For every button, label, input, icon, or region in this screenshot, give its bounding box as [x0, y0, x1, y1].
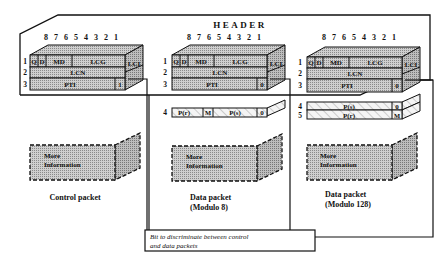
row-number: 4	[298, 102, 302, 111]
field-pti: PTI	[206, 81, 218, 89]
field-q: Q	[31, 58, 37, 66]
more-info-text: Information	[44, 161, 81, 169]
more-info-text: More	[320, 152, 336, 160]
data-mod128-header: 8 7 6 5 4 3 2 1 1 2 3 Q D MD LCG LCI LCN…	[298, 33, 420, 92]
field-lcn: LCN	[71, 69, 86, 77]
control-more-info: More Information	[30, 133, 140, 180]
control-packet-header: 8 7 6 5 4 3 2 1 1 2 3 Q D MD LCG LCI LCN…	[23, 33, 143, 90]
field-lcg: LCG	[232, 58, 248, 66]
row-number: 2	[23, 68, 27, 77]
field-d: D	[39, 58, 44, 66]
bit-numbers: 8 7 6 5 4 3 2 1	[322, 33, 398, 42]
field-lcg: LCG	[90, 58, 106, 66]
bit-numbers: 8 7 6 5 4 3 2 1	[44, 33, 120, 42]
data-mod8-title: Data packet	[190, 193, 231, 202]
field-lci: LCI	[405, 61, 418, 69]
field-discriminator-bit: 1	[118, 81, 122, 89]
x25-packet-diagram: HEADER 8 7 6 5 4 3 2 1 1 2 3 Q D MD LCG …	[0, 0, 447, 264]
data-mod8-header: 8 7 6 5 4 3 2 1 1 2 3 Q D MD LCG LCI LCN…	[163, 33, 285, 90]
discriminator-caption: Bit to discriminate between control and …	[145, 230, 315, 251]
row-number: 2	[163, 68, 167, 77]
field-pr: P(r)	[178, 109, 191, 117]
row-number: 1	[163, 57, 167, 66]
more-info-text: More	[44, 152, 60, 160]
row-number: 3	[298, 81, 302, 90]
field-md: MD	[195, 58, 207, 66]
field-bit: 0	[395, 103, 399, 111]
field-m: M	[394, 112, 400, 119]
row-number: 3	[23, 80, 27, 89]
row-number: 2	[298, 69, 302, 78]
data-mod8-row4: 4 P(r) M P(s) 0	[163, 100, 285, 117]
field-lcn: LCN	[213, 69, 228, 77]
field-discriminator-bit: 0	[260, 81, 264, 89]
row-number: 5	[298, 111, 302, 120]
more-info-text: More	[186, 153, 202, 161]
field-pr: P(r)	[343, 112, 356, 120]
bit-numbers: 8 7 6 5 4 3 2 1	[187, 33, 263, 42]
field-discriminator-bit: 0	[395, 82, 399, 90]
row-number: 1	[298, 58, 302, 67]
field-m: M	[205, 109, 211, 116]
field-pti: PTI	[64, 81, 76, 89]
data-mod128-title: Data packet	[325, 190, 366, 199]
field-q: Q	[308, 59, 314, 67]
header-label: HEADER	[213, 20, 267, 30]
field-lcn: LCN	[348, 70, 363, 78]
field-bit: 0	[260, 109, 264, 117]
field-d: D	[181, 58, 186, 66]
caption-text: and data packets	[150, 242, 198, 250]
more-info-text: Information	[186, 162, 223, 170]
row-number: 4	[163, 108, 167, 117]
field-lci: LCI	[128, 60, 141, 68]
data-mod128-subtitle: (Modulo 128)	[325, 200, 371, 209]
data-mod8-more-info: More Information	[172, 134, 282, 181]
data-mod128-rows45: 4 5 P(s) 0 P(r) M	[298, 94, 420, 120]
field-lci: LCI	[270, 60, 283, 68]
field-q: Q	[173, 58, 179, 66]
row-number: 1	[23, 57, 27, 66]
field-ps: P(s)	[343, 103, 355, 111]
field-d: D	[316, 59, 321, 67]
data-mod128-more-info: More Information	[307, 133, 417, 180]
field-pti: PTI	[341, 82, 353, 90]
field-lcg: LCG	[367, 59, 383, 67]
row-number: 3	[163, 80, 167, 89]
field-md: MD	[330, 59, 342, 67]
more-info-text: Information	[320, 161, 357, 169]
field-ps: P(s)	[229, 109, 241, 117]
control-packet-title: Control packet	[49, 193, 101, 202]
data-mod8-subtitle: (Modulo 8)	[190, 203, 228, 212]
field-md: MD	[53, 58, 65, 66]
caption-text: Bit to discriminate between control	[150, 233, 249, 241]
